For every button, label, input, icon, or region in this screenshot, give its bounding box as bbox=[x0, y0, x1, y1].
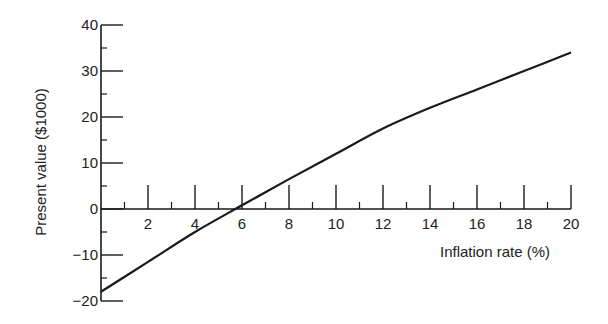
y-tick-label: 0 bbox=[90, 200, 98, 217]
y-tick-label: −20 bbox=[73, 292, 98, 309]
y-tick-label: 30 bbox=[81, 62, 98, 79]
x-axis: 2468101214161820 bbox=[101, 185, 579, 232]
x-tick-label: 16 bbox=[469, 215, 486, 232]
y-tick-label: 10 bbox=[81, 154, 98, 171]
y-tick-label: 40 bbox=[81, 16, 98, 33]
y-axis-label: Present value ($1000) bbox=[32, 88, 49, 236]
x-axis-label: Inflation rate (%) bbox=[440, 243, 550, 260]
y-tick-label: 20 bbox=[81, 108, 98, 125]
x-tick-label: 2 bbox=[144, 215, 152, 232]
x-tick-label: 8 bbox=[285, 215, 293, 232]
x-tick-label: 6 bbox=[238, 215, 246, 232]
x-tick-label: 18 bbox=[516, 215, 533, 232]
x-tick-label: 14 bbox=[422, 215, 439, 232]
y-axis: −20−10010203040 bbox=[73, 16, 123, 309]
x-tick-label: 10 bbox=[328, 215, 345, 232]
present-value-chart: −20−10010203040 2468101214161820 Present… bbox=[0, 0, 608, 324]
y-tick-label: −10 bbox=[73, 246, 98, 263]
x-tick-label: 12 bbox=[375, 215, 392, 232]
x-tick-label: 20 bbox=[563, 215, 580, 232]
